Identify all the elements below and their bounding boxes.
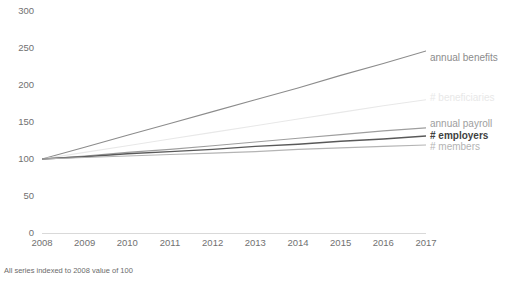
chart-footnote: All series indexed to 2008 value of 100	[4, 266, 133, 275]
chart-container: 050100150200250300 200820092010201120122…	[0, 0, 517, 284]
series-line	[42, 100, 426, 159]
x-axis-tick-label: 2008	[31, 238, 52, 248]
y-axis-tick-label: 100	[18, 154, 34, 164]
x-axis-tick-label: 2012	[202, 238, 223, 248]
series-label-employers: # employers	[430, 130, 488, 141]
series-line	[42, 136, 426, 159]
y-axis: 050100150200250300	[0, 0, 42, 260]
series-line	[42, 145, 426, 159]
plot-area	[42, 11, 426, 233]
x-axis-tick-label: 2013	[245, 238, 266, 248]
y-axis-tick-label: 200	[18, 80, 34, 90]
y-axis-tick-label: 250	[18, 43, 34, 53]
series-line	[42, 51, 426, 159]
series-lines	[42, 11, 426, 233]
y-axis-tick-label: 150	[18, 117, 34, 127]
x-axis: 2008200920102011201220132014201520162017	[42, 238, 426, 252]
series-label-beneficiaries: # beneficiaries	[430, 92, 494, 103]
y-axis-tick-label: 300	[18, 6, 34, 16]
x-axis-tick-label: 2010	[117, 238, 138, 248]
chart-title	[0, 0, 517, 7]
x-axis-tick-label: 2017	[415, 238, 436, 248]
series-label-annual-payroll: annual payroll	[430, 118, 492, 129]
x-axis-line	[42, 233, 426, 234]
x-axis-tick-label: 2011	[160, 238, 180, 248]
series-label-members: # members	[430, 141, 480, 152]
x-axis-tick-label: 2015	[330, 238, 351, 248]
y-axis-tick-label: 50	[23, 191, 34, 201]
series-label-annual-benefits: annual benefits	[430, 52, 498, 63]
x-axis-tick-label: 2009	[74, 238, 95, 248]
x-axis-tick-label: 2016	[373, 238, 394, 248]
x-axis-tick-label: 2014	[287, 238, 308, 248]
